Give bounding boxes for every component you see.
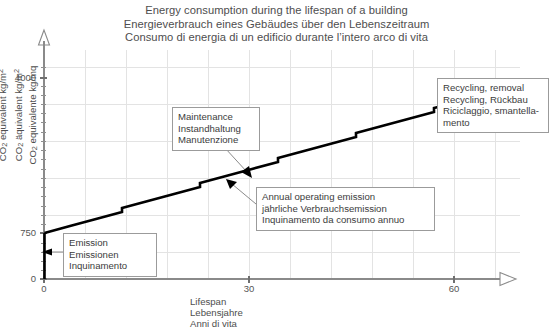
x-tick-label-0: 0 — [36, 283, 52, 294]
x-axis-title-it: Anni di vita — [190, 318, 350, 329]
callout-emission-de: Emissionen — [69, 249, 151, 261]
x-axis-title-en: Lifespan — [190, 296, 350, 307]
y-tick-label-750: 750 — [0, 227, 36, 238]
callout-operating-en: Annual operating emission — [262, 191, 429, 203]
leader-operating — [232, 184, 256, 204]
y-axis-title-de: CO2 äquivalent kg/m2 — [11, 45, 27, 185]
x-axis-arrowhead-icon — [500, 273, 516, 286]
callout-emission: Emission Emissionen Inquinamento — [63, 233, 157, 277]
callout-maintenance-it: Manutenzione — [178, 134, 254, 146]
callout-maintenance-en: Maintenance — [178, 111, 254, 123]
operating-arrowhead-icon — [226, 179, 237, 189]
x-tick-label-30: 30 — [241, 283, 257, 294]
y-tick-label-0: 0 — [0, 273, 36, 284]
callout-operating-it: Inquinamento da consumo annuo — [262, 214, 429, 226]
y-axis-title-en: CO2 equivalent kg/m2 — [0, 45, 11, 185]
callout-emission-en: Emission — [69, 237, 151, 249]
x-tick-label-60: 60 — [446, 283, 462, 294]
callout-recycling-de: Recycling, Rückbau — [443, 94, 543, 106]
x-axis-title: Lifespan Lebensjahre Anni di vita — [190, 296, 350, 330]
chart-container: Energy consumption during the lifespan o… — [0, 0, 553, 332]
chart-plot-svg — [0, 0, 553, 332]
leader-maintenance — [225, 148, 247, 172]
callout-recycling-en: Recycling, removal — [443, 82, 543, 94]
callout-maintenance: Maintenance Instandhaltung Manutenzione — [172, 107, 260, 151]
callout-emission-it: Inquinamento — [69, 260, 151, 272]
y-axis-title-it: CO2 equivalente kg/mq — [27, 45, 41, 185]
x-axis-title-de: Lebensjahre — [190, 307, 350, 318]
callout-recycling-it: Riciclaggio, smantella-mento — [443, 105, 543, 128]
callout-annual-operating-emission: Annual operating emission jährliche Verb… — [256, 187, 435, 231]
y-axis-title: CO2 equivalent kg/m2 CO2 äquivalent kg/m… — [0, 45, 41, 185]
callout-maintenance-de: Instandhaltung — [178, 123, 254, 135]
callout-operating-de: jährliche Verbrauchsemission — [262, 203, 429, 215]
callout-recycling-removal: Recycling, removal Recycling, Rückbau Ri… — [437, 78, 549, 133]
